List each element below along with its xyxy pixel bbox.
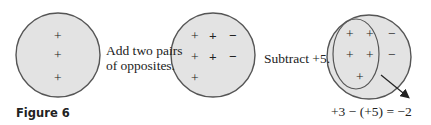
figure-label: Figure 6 [16, 106, 70, 120]
plus-symbol: + [346, 26, 354, 41]
plus-symbol: + [191, 28, 199, 43]
plus-symbol: + [54, 47, 62, 62]
plus-symbol: + [346, 47, 354, 62]
plus-symbol: + [366, 47, 374, 62]
minus-symbol: − [388, 26, 396, 41]
step2-label: Subtract +5. [264, 51, 330, 66]
plus-symbol: + [191, 70, 199, 85]
minus-symbol: − [229, 28, 237, 43]
step1-label-line2: of opposites. [106, 58, 175, 73]
plus-symbol: + [54, 70, 62, 85]
plus-symbol: + [191, 49, 199, 64]
plus-symbol: + [209, 28, 217, 43]
plus-symbol: + [366, 26, 374, 41]
plus-symbol: + [54, 28, 62, 43]
equation: +3 − (+5) = −2 [331, 104, 412, 119]
minus-symbol: − [388, 47, 396, 62]
plus-symbol: + [209, 49, 217, 64]
minus-symbol: − [229, 49, 237, 64]
plus-symbol: + [356, 69, 364, 84]
step1-label-line1: Add two pairs [106, 43, 183, 58]
